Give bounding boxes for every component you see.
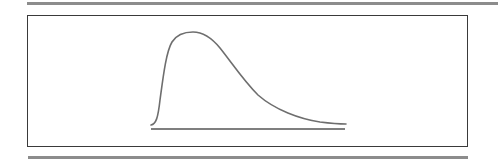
distribution-curve xyxy=(151,32,346,125)
bottom-rule xyxy=(28,156,468,159)
skewed-distribution-plot xyxy=(0,0,498,159)
